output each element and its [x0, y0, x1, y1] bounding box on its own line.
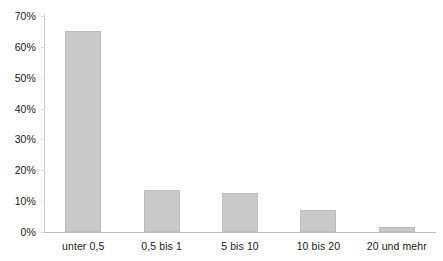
bar: [144, 190, 180, 232]
x-axis-tick-label: 0,5 bis 1: [141, 240, 182, 253]
x-axis-tick-label: unter 0,5: [62, 240, 104, 253]
y-axis-tick-mark: [41, 170, 45, 171]
y-axis-tick-mark: [41, 109, 45, 110]
bar: [379, 227, 415, 232]
bar: [300, 210, 336, 232]
x-axis: unter 0,50,5 bis 15 bis 1010 bis 2020 un…: [44, 240, 436, 256]
y-axis-tick-label: 10%: [15, 196, 36, 207]
y-axis-tick-label: 30%: [15, 134, 36, 145]
y-axis-tick-mark: [41, 16, 45, 17]
bar-chart: 0%10%20%30%40%50%60%70% unter 0,50,5 bis…: [0, 0, 443, 261]
x-axis-line: [44, 232, 436, 233]
y-axis-tick-mark: [41, 47, 45, 48]
bar: [65, 31, 101, 232]
plot-area: [44, 16, 436, 232]
y-axis-tick-label: 40%: [15, 103, 36, 114]
x-axis-tick-label: 20 und mehr: [367, 240, 427, 253]
bar: [222, 193, 258, 232]
y-axis-tick-mark: [41, 139, 45, 140]
y-axis-tick-mark: [41, 201, 45, 202]
y-axis-tick-mark: [41, 232, 45, 233]
y-axis: 0%10%20%30%40%50%60%70%: [0, 0, 40, 261]
y-axis-tick-label: 20%: [15, 165, 36, 176]
y-axis-tick-label: 0%: [21, 227, 36, 238]
y-axis-tick-label: 70%: [15, 11, 36, 22]
y-axis-tick-mark: [41, 78, 45, 79]
y-axis-tick-label: 50%: [15, 72, 36, 83]
x-axis-tick-label: 10 bis 20: [297, 240, 341, 253]
x-axis-tick-label: 5 bis 10: [221, 240, 259, 253]
y-axis-tick-label: 60%: [15, 42, 36, 53]
